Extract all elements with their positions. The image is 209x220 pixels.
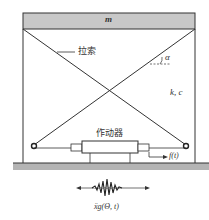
seismic-wave-icon [92, 179, 122, 196]
actuator-body [82, 141, 138, 153]
actuator-rod-left [71, 144, 82, 151]
actuator-rod-right [138, 144, 149, 151]
actuator-label: 作动器 [96, 129, 123, 138]
force-arrow-head [163, 155, 168, 159]
force-leader [149, 152, 165, 157]
angle-arc [160, 57, 162, 64]
excitation-arrow-left-head [76, 186, 81, 190]
mass-label: m [105, 15, 112, 24]
structure-diagram [0, 0, 209, 220]
ground [13, 163, 209, 170]
angle-label: α [165, 53, 170, 62]
stiffness-damping-label: k, c [170, 88, 183, 97]
force-label: f(t) [169, 152, 179, 160]
cable-label: 拉索 [78, 47, 96, 56]
ground-excitation-label: ẍg(Θ, t) [94, 203, 119, 211]
excitation-arrow-right-head [145, 186, 150, 190]
